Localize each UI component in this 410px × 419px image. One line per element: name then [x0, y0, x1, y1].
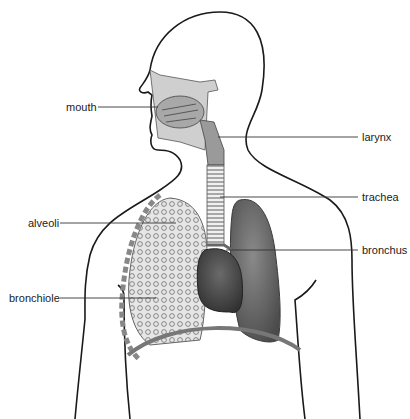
label-bronchus: bronchus	[362, 244, 407, 256]
label-trachea: trachea	[362, 191, 399, 203]
label-larynx: larynx	[362, 131, 391, 143]
label-bronchiole: bronchiole	[9, 292, 60, 304]
label-mouth: mouth	[66, 101, 97, 113]
label-alveoli: alveoli	[28, 217, 59, 229]
respiratory-system-illustration	[0, 0, 410, 419]
